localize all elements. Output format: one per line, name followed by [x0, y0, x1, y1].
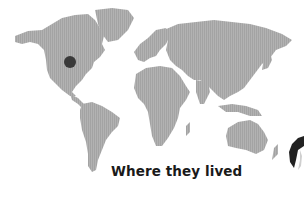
continents: [15, 8, 292, 172]
map-caption: Where they lived: [111, 163, 242, 179]
location-marker: [64, 56, 76, 68]
southeast-asia-islands: [218, 104, 262, 116]
australia: [226, 120, 268, 154]
europe: [134, 28, 170, 62]
new-zealand: [272, 144, 278, 160]
madagascar: [186, 122, 190, 136]
edge-object: [289, 136, 304, 168]
south-america: [80, 102, 120, 172]
north-america: [15, 14, 105, 96]
india: [196, 80, 210, 104]
edge-object-highlight: [298, 150, 302, 170]
africa: [134, 66, 190, 146]
